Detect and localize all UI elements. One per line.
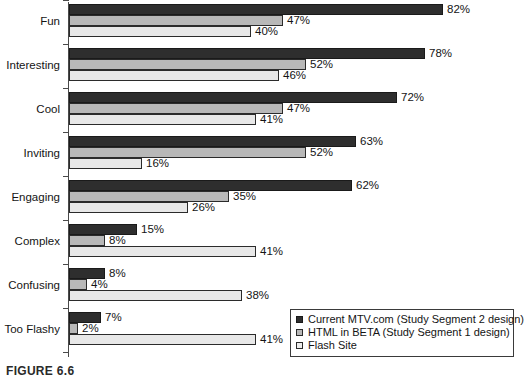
bar-cool-series2[interactable] (69, 114, 256, 125)
bar-engaging-series2[interactable] (69, 202, 188, 213)
bar-value-label: 40% (251, 25, 278, 38)
bar-row: 41% (69, 114, 520, 125)
bar-row: 38% (69, 290, 520, 301)
bar-value-label: 46% (279, 69, 306, 82)
y-axis-tick (63, 308, 69, 309)
bar-value-label: 41% (256, 113, 283, 126)
figure-caption: FIGURE 6.6 (6, 364, 74, 378)
bar-value-label: 41% (256, 333, 283, 346)
bar-inviting-series1[interactable] (69, 147, 306, 158)
bar-row: 63% (69, 136, 520, 147)
bar-row: 47% (69, 15, 520, 26)
bar-fun-series2[interactable] (69, 26, 251, 37)
category-label-complex: Complex (0, 235, 60, 247)
category-label-inviting: Inviting (0, 147, 60, 159)
bar-complex-series0[interactable] (69, 224, 137, 235)
bar-row: 40% (69, 26, 520, 37)
bar-row: 62% (69, 180, 520, 191)
bar-row: 26% (69, 202, 520, 213)
y-axis-tick (63, 0, 69, 1)
y-axis-tick (63, 352, 69, 353)
bar-row: 52% (69, 147, 520, 158)
bar-row: 8% (69, 235, 520, 246)
bar-engaging-series0[interactable] (69, 180, 352, 191)
category-label-fun: Fun (0, 15, 60, 27)
y-axis-tick (63, 264, 69, 265)
bar-cool-series1[interactable] (69, 103, 283, 114)
bar-row: 7% (69, 312, 520, 323)
bar-row: 4% (69, 279, 520, 290)
bar-value-label: 41% (256, 245, 283, 258)
bar-complex-series2[interactable] (69, 246, 256, 257)
bar-row: 35% (69, 191, 520, 202)
bar-inviting-series2[interactable] (69, 158, 142, 169)
category-label-confusing: Confusing (0, 279, 60, 291)
bar-row: 47% (69, 103, 520, 114)
bar-interesting-series0[interactable] (69, 48, 425, 59)
y-axis-tick (63, 176, 69, 177)
bar-row: 41% (69, 334, 520, 345)
bar-too-flashy-series1[interactable] (69, 323, 78, 334)
bar-interesting-series2[interactable] (69, 70, 279, 81)
bar-row: 8% (69, 268, 520, 279)
category-label-engaging: Engaging (0, 191, 60, 203)
category-label-cool: Cool (0, 103, 60, 115)
bar-row: 78% (69, 48, 520, 59)
bar-row: 2% (69, 323, 520, 334)
y-axis-tick (63, 88, 69, 89)
bar-interesting-series1[interactable] (69, 59, 306, 70)
y-axis-tick (63, 220, 69, 221)
bar-confusing-series2[interactable] (69, 290, 242, 301)
bar-row: 41% (69, 246, 520, 257)
bar-value-label: 38% (242, 289, 269, 302)
bar-complex-series1[interactable] (69, 235, 105, 246)
bar-confusing-series1[interactable] (69, 279, 87, 290)
bar-value-label: 16% (142, 157, 169, 170)
bar-row: 15% (69, 224, 520, 235)
bar-value-label: 26% (188, 201, 215, 214)
bar-fun-series0[interactable] (69, 4, 443, 15)
bar-too-flashy-series2[interactable] (69, 334, 256, 345)
y-axis-tick (63, 44, 69, 45)
bar-row: 46% (69, 70, 520, 81)
category-label-interesting: Interesting (0, 59, 60, 71)
bar-row: 16% (69, 158, 520, 169)
y-axis-tick (63, 132, 69, 133)
category-label-too-flashy: Too Flashy (0, 323, 60, 335)
bar-cool-series0[interactable] (69, 92, 397, 103)
